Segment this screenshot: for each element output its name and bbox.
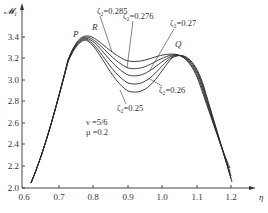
y-tick-label: 2.2 bbox=[8, 161, 19, 171]
x-tick-label: 1.1 bbox=[191, 192, 202, 202]
zeta-026-label: ζ₂=0.26 bbox=[159, 85, 185, 95]
x-tick-label: 1.2 bbox=[225, 192, 236, 202]
x-tick-label: 0.9 bbox=[122, 192, 134, 202]
y-tick-label: 2.8 bbox=[8, 96, 20, 106]
x-tick-label: 1.0 bbox=[156, 192, 168, 202]
x-axis-arrow-icon bbox=[249, 186, 256, 190]
x-tick-label: 0.6 bbox=[18, 192, 30, 202]
x-axis-label: η bbox=[259, 192, 264, 202]
x-tick-label: 0.8 bbox=[87, 192, 99, 202]
x-tick-label: 0.7 bbox=[53, 192, 65, 202]
y-tick-label: 3.2 bbox=[8, 53, 19, 63]
mu-label: μ =0.2 bbox=[86, 127, 108, 137]
zeta-0276-label: ζ₂=0.276 bbox=[123, 11, 153, 21]
line-chart: 2.0 2.2 2.4 2.6 2.8 3.0 3.2 3.4 0.6 0.7 … bbox=[0, 0, 268, 213]
y-tick-label: 2.6 bbox=[8, 118, 20, 128]
zeta-027-label: ζ₂=0.27 bbox=[170, 18, 196, 28]
nu-label: ν =5/6 bbox=[86, 117, 108, 127]
point-q-label: Q bbox=[175, 39, 182, 49]
point-p-label: P bbox=[72, 29, 79, 39]
axes bbox=[20, 3, 256, 190]
zeta-025-label: ζ₂=0.25 bbox=[117, 103, 143, 113]
y-tick-label: 3.4 bbox=[8, 32, 20, 42]
y-tick-label: 2.4 bbox=[8, 139, 20, 149]
y-tick-label: 3.0 bbox=[8, 75, 20, 85]
y-axis-arrow-icon bbox=[20, 3, 24, 10]
point-r-label: R bbox=[91, 22, 98, 32]
y-axis-label: 𝓜1 bbox=[4, 6, 17, 17]
